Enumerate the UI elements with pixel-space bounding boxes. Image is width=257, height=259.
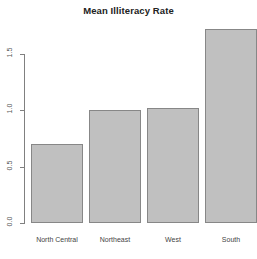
bar bbox=[89, 110, 141, 223]
bar bbox=[205, 29, 257, 223]
bar bbox=[147, 108, 199, 223]
bars-layer: North CentralNortheastWestSouth bbox=[0, 0, 257, 259]
x-axis-category-label: South bbox=[191, 236, 257, 243]
bar-chart: Mean Illiteracy Rate 0.00.51.01.5 North … bbox=[0, 0, 257, 259]
bar bbox=[31, 144, 83, 223]
